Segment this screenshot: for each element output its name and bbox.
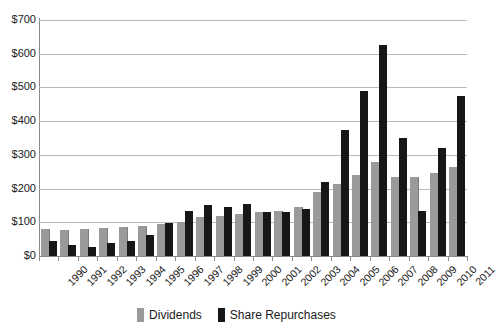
- bar-group: [253, 20, 272, 256]
- bar-group: [156, 20, 175, 256]
- bar-group: [175, 20, 194, 256]
- bar-group: [117, 20, 136, 256]
- x-axis-tick: [117, 256, 118, 261]
- y-axis-tick-label: $0: [3, 250, 36, 261]
- bar-group: [409, 20, 428, 256]
- x-axis-tick-label: 1991: [84, 263, 109, 288]
- x-axis-tick: [175, 256, 176, 261]
- x-axis-tick: [272, 256, 273, 261]
- bar-share-repurchases: [360, 91, 368, 256]
- bar-group: [331, 20, 350, 256]
- x-axis-tick: [97, 256, 98, 261]
- bar-share-repurchases: [418, 211, 426, 257]
- x-axis-tick-label: 1993: [123, 263, 148, 288]
- x-axis-tick-label: 2003: [317, 263, 342, 288]
- x-axis-tick-label: 1994: [142, 263, 167, 288]
- y-axis-tick-label: $700: [3, 14, 36, 25]
- bar-share-repurchases: [399, 138, 407, 256]
- x-axis-tick: [409, 256, 410, 261]
- x-axis-tick-label: 1992: [103, 263, 128, 288]
- bar-group: [350, 20, 369, 256]
- bar-share-repurchases: [282, 212, 290, 256]
- x-axis-tick-label: 2009: [434, 263, 459, 288]
- dividends-swatch: [137, 308, 144, 322]
- y-axis-tick-label: $600: [3, 48, 36, 59]
- chart-legend: DividendsShare Repurchases: [0, 308, 473, 322]
- x-axis-tick-label: 2011: [473, 263, 497, 287]
- bar-group: [234, 20, 253, 256]
- x-axis-tick: [389, 256, 390, 261]
- x-axis-tick-label: 2000: [259, 263, 284, 288]
- legend-label: Share Repurchases: [230, 308, 336, 322]
- bar-group: [448, 20, 467, 256]
- bar-share-repurchases: [321, 182, 329, 256]
- bar-group: [311, 20, 330, 256]
- bar-share-repurchases: [185, 211, 193, 257]
- x-axis-tick-label: 2002: [298, 263, 323, 288]
- x-axis-tick: [78, 256, 79, 261]
- x-axis-tick: [136, 256, 137, 261]
- x-axis-tick: [448, 256, 449, 261]
- x-axis-tick: [467, 256, 468, 261]
- bar-share-repurchases: [49, 241, 57, 256]
- bar-share-repurchases: [341, 130, 349, 256]
- x-axis-tick: [156, 256, 157, 261]
- bar-group: [292, 20, 311, 256]
- y-axis-tick-label: $500: [3, 81, 36, 92]
- y-axis-tick-label: $400: [3, 115, 36, 126]
- y-axis-labels: $700$600$500$400$300$200$100$0: [0, 0, 36, 332]
- bar-group: [39, 20, 58, 256]
- x-axis-tick: [39, 256, 40, 261]
- bar-group: [389, 20, 408, 256]
- x-axis-tick: [311, 256, 312, 261]
- x-axis-tick: [253, 256, 254, 261]
- legend-item: Share Repurchases: [218, 308, 336, 322]
- bar-group: [136, 20, 155, 256]
- bar-group: [195, 20, 214, 256]
- x-axis-tick: [370, 256, 371, 261]
- x-axis-tick: [292, 256, 293, 261]
- bar-share-repurchases: [263, 212, 271, 256]
- x-axis-tick: [195, 256, 196, 261]
- bar-share-repurchases: [438, 148, 446, 256]
- bar-group: [214, 20, 233, 256]
- y-axis-tick-label: $300: [3, 149, 36, 160]
- x-axis-tick-label: 2004: [337, 263, 362, 288]
- x-axis-tick-label: 2005: [356, 263, 381, 288]
- bar-share-repurchases: [379, 45, 387, 256]
- bar-share-repurchases: [224, 207, 232, 256]
- x-axis-tick-label: 1990: [65, 263, 90, 288]
- bar-share-repurchases: [457, 96, 465, 256]
- legend-item: Dividends: [137, 308, 202, 322]
- x-axis-tick-label: 2001: [279, 263, 304, 288]
- x-axis-tick-label: 1998: [220, 263, 245, 288]
- x-axis-tick-label: 2007: [395, 263, 420, 288]
- bars-layer: [39, 20, 467, 256]
- y-axis-tick-label: $200: [3, 183, 36, 194]
- bar-share-repurchases: [88, 247, 96, 256]
- bar-group: [428, 20, 447, 256]
- share-repurchases-swatch: [218, 308, 225, 322]
- bar-share-repurchases: [107, 243, 115, 256]
- bar-share-repurchases: [146, 235, 154, 256]
- x-axis-tick: [428, 256, 429, 261]
- bar-group: [97, 20, 116, 256]
- bar-group: [78, 20, 97, 256]
- x-axis-tick: [350, 256, 351, 261]
- bar-group: [370, 20, 389, 256]
- x-axis-tick: [331, 256, 332, 261]
- bar-share-repurchases: [127, 241, 135, 256]
- bar-group: [272, 20, 291, 256]
- bar-group: [58, 20, 77, 256]
- bar-share-repurchases: [204, 205, 212, 256]
- bar-share-repurchases: [243, 204, 251, 256]
- x-axis-tick-label: 1996: [181, 263, 206, 288]
- bar-share-repurchases: [165, 223, 173, 256]
- legend-label: Dividends: [149, 308, 202, 322]
- x-axis-tick: [234, 256, 235, 261]
- bar-share-repurchases: [68, 245, 76, 256]
- x-axis-tick: [58, 256, 59, 261]
- y-axis-tick-label: $100: [3, 216, 36, 227]
- x-axis-tick: [214, 256, 215, 261]
